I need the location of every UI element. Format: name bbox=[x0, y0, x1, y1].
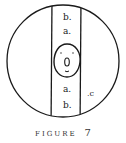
strip-left-line bbox=[51, 0, 52, 130]
caption-word: FIGURE bbox=[35, 130, 77, 138]
face-icon bbox=[54, 44, 80, 77]
label-c: .c bbox=[87, 90, 94, 98]
label-b-bottom: b. bbox=[63, 101, 72, 110]
label-b-top: b. bbox=[63, 13, 72, 22]
label-a-top: a. bbox=[63, 27, 71, 36]
label-a-bottom: a. bbox=[63, 85, 71, 94]
figure-caption: FIGURE7 bbox=[0, 127, 126, 138]
caption-number: 7 bbox=[85, 127, 91, 138]
